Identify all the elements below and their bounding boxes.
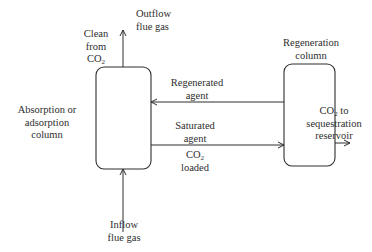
outflow-label: Outflow flue gas (136, 8, 171, 33)
inflow-label: Inflow flue gas (101, 219, 147, 244)
regenerated-agent-label: Regenerated agent (162, 77, 232, 102)
co2-to-reservoir-label: CO2 to sequestration reservoir (296, 105, 372, 143)
absorption-column-box (96, 67, 151, 169)
absorption-column-label: Absorption or adsorption column (10, 104, 84, 142)
clean-from-co2-label: Clean from CO2 (80, 28, 112, 66)
regeneration-column-label: Regeneration column (276, 37, 346, 62)
co2-loaded-label: CO2 loaded (172, 149, 218, 174)
saturated-agent-label: Saturated agent (165, 120, 225, 145)
